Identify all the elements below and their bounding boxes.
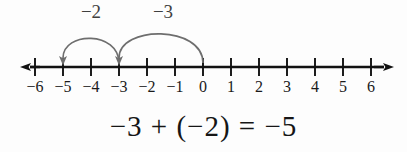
equation-text: −3 + (−2) = −5 xyxy=(0,110,407,143)
tick-label-6: 6 xyxy=(351,78,391,96)
jump-arc--3 xyxy=(119,34,203,63)
jump-label--3: −3 xyxy=(133,2,193,22)
number-line-figure: −6 −5 −4 −3 −2 −1 0 1 2 3 4 5 6 −2 −3 −3… xyxy=(0,0,407,152)
jump-label--2: −2 xyxy=(61,2,121,22)
